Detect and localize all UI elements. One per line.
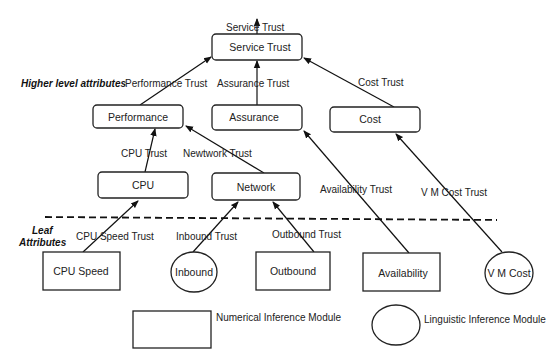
edge-label-cpu-speed-trust: CPU Speed Trust [76, 231, 154, 242]
section-label-leaf-line2: Attributes [18, 237, 67, 248]
svg-text:Linguistic Inference Module: Linguistic Inference Module [424, 314, 546, 325]
svg-text:Cost: Cost [359, 113, 381, 125]
node-availability: Availability [363, 253, 440, 291]
svg-text:Performance: Performance [108, 111, 168, 123]
edge-label-inbound-trust: Inbound Trust [176, 231, 237, 242]
edge-label-vm-cost-trust: V M Cost Trust [421, 187, 487, 198]
node-cost: Cost [330, 107, 420, 132]
section-label-higher-level: Higher level attributes [21, 78, 126, 89]
svg-text:Availability: Availability [378, 267, 428, 279]
legend-numerical: Numerical Inference Module [133, 311, 341, 348]
outbound-to-network-arrow [273, 202, 314, 252]
node-outbound: Outbound [256, 252, 330, 290]
cpuspeed-to-cpu-arrow [83, 201, 138, 252]
node-vm-cost: V M Cost [485, 252, 533, 294]
edge-label-network-trust: Newtwork Trust [183, 148, 252, 159]
edge-label-cost-trust: Cost Trust [358, 77, 404, 88]
svg-text:CPU: CPU [132, 179, 154, 191]
svg-text:Service Trust: Service Trust [229, 41, 290, 53]
edge-label-service-trust: Service Trust [226, 22, 285, 33]
edge-label-performance-trust: Performance Trust [125, 78, 207, 89]
node-service-trust: Service Trust [212, 34, 302, 60]
legend-linguistic: Linguistic Inference Module [372, 305, 546, 345]
legend-rectangle-shape [133, 311, 211, 348]
svg-text:Inbound: Inbound [175, 266, 213, 278]
svg-text:Network: Network [237, 181, 276, 193]
edge-label-cpu-trust: CPU Trust [121, 148, 167, 159]
node-inbound: Inbound [171, 252, 217, 292]
svg-text:Numerical Inference Module: Numerical Inference Module [216, 312, 341, 323]
section-label-leaf-line1: Leaf [32, 225, 54, 236]
inbound-to-network-arrow [193, 202, 238, 252]
legend-ellipse-shape [372, 305, 420, 345]
edge-label-outbound-trust: Outbound Trust [272, 229, 341, 240]
trust-hierarchy-diagram: Service Trust Performance Assurance Cost… [0, 0, 551, 359]
svg-text:Outbound: Outbound [270, 265, 316, 277]
node-cpu-speed: CPU Speed [43, 252, 120, 290]
node-network: Network [212, 173, 300, 200]
svg-text:V M Cost: V M Cost [487, 267, 530, 279]
node-assurance: Assurance [212, 105, 302, 130]
node-performance: Performance [93, 105, 183, 128]
node-cpu: CPU [98, 172, 188, 198]
svg-text:Assurance: Assurance [229, 111, 279, 123]
svg-text:CPU Speed: CPU Speed [53, 265, 109, 277]
edge-label-availability-trust: Availability Trust [320, 184, 392, 195]
level-separator-dashed-line [45, 217, 497, 220]
edge-label-assurance-trust: Assurance Trust [217, 78, 289, 89]
